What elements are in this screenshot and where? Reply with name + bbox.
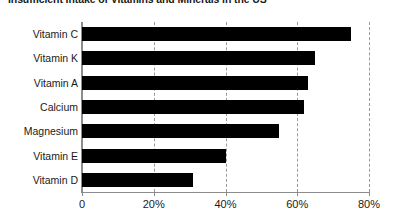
tick-mark-0 <box>82 192 83 196</box>
y-axis-label: Magnesium <box>0 124 78 138</box>
bar-row <box>82 124 369 138</box>
gridline-80% <box>369 22 370 192</box>
y-axis-label: Vitamin D <box>0 173 78 187</box>
bar-row <box>82 173 369 187</box>
bar-vitamin-d <box>82 173 193 187</box>
bar-vitamin-e <box>82 149 226 163</box>
bar-chart: Insufficient Intake of Vitamins and Mine… <box>0 0 397 224</box>
x-axis-tick-label: 60% <box>286 198 308 210</box>
x-axis-tick-label: 0 <box>79 198 85 210</box>
x-axis-tick-label: 80% <box>358 198 380 210</box>
bar-vitamin-a <box>82 76 308 90</box>
bar-calcium <box>82 100 304 114</box>
y-axis-labels: Vitamin CVitamin KVitamin ACalciumMagnes… <box>0 22 78 192</box>
y-axis-label: Calcium <box>0 100 78 114</box>
x-axis-tick-label: 20% <box>143 198 165 210</box>
bar-row <box>82 100 369 114</box>
bar-magnesium <box>82 124 279 138</box>
tick-mark-40% <box>226 192 227 196</box>
tick-mark-60% <box>297 192 298 196</box>
bar-vitamin-c <box>82 27 351 41</box>
tick-mark-80% <box>369 192 370 196</box>
bar-row <box>82 27 369 41</box>
plot-area <box>82 22 369 192</box>
bar-row <box>82 51 369 65</box>
bar-row <box>82 76 369 90</box>
x-axis-tick-label: 40% <box>214 198 236 210</box>
y-axis-label: Vitamin E <box>0 149 78 163</box>
y-axis-label: Vitamin A <box>0 76 78 90</box>
tick-mark-20% <box>154 192 155 196</box>
chart-title: Insufficient Intake of Vitamins and Mine… <box>8 0 388 7</box>
y-axis-label: Vitamin K <box>0 51 78 65</box>
bar-vitamin-k <box>82 51 315 65</box>
y-axis-label: Vitamin C <box>0 27 78 41</box>
bar-row <box>82 149 369 163</box>
